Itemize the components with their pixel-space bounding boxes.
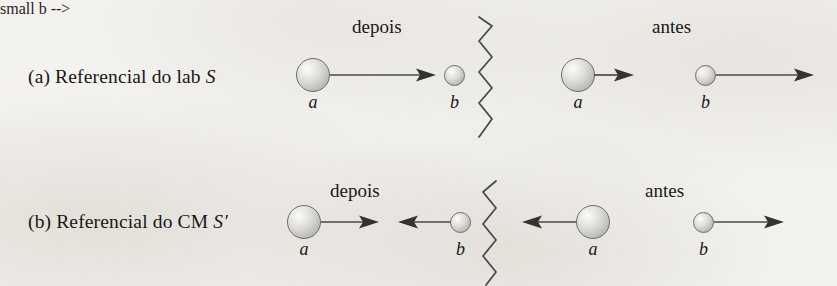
arrow-b-cm-antes-right <box>712 209 786 235</box>
separator-zigzag-bottom <box>474 180 514 286</box>
frame-symbol-cm: S′ <box>213 211 228 232</box>
phase-label-cm-antes: antes <box>645 180 684 202</box>
phase-label-lab-antes: antes <box>652 16 691 38</box>
phase-label-lab-depois: depois <box>352 16 402 38</box>
particle-b-lab-antes <box>695 65 716 86</box>
collision-frames-figure: (a) Referencial do lab S depois antes sm… <box>0 0 837 286</box>
particle-a-cm-antes <box>576 205 610 239</box>
particle-label-b-cm-antes: b <box>692 239 715 260</box>
row-label-lab-text: (a) Referencial do lab <box>28 66 201 87</box>
row-label-lab-frame: (a) Referencial do lab S <box>28 66 216 88</box>
particle-a-lab-depois <box>296 58 330 92</box>
particle-b-cm-depois <box>450 212 471 233</box>
particle-label-a-lab-antes: a <box>561 92 595 113</box>
particle-label-a-cm-depois: a <box>287 239 321 260</box>
particle-b-cm-antes <box>693 212 714 233</box>
particle-label-a-cm-antes: a <box>576 239 610 260</box>
arrow-b-cm-depois-left <box>396 209 458 235</box>
particle-label-b-lab-depois: b <box>443 92 466 113</box>
frame-symbol-lab: S <box>206 66 216 87</box>
arrow-b-lab-antes-right <box>714 62 816 88</box>
particle-a-cm-depois <box>287 205 321 239</box>
particle-a-lab-antes <box>561 58 595 92</box>
arrow-a-cm-antes-left <box>520 209 582 235</box>
arrow-a-lab-antes-right <box>592 62 636 88</box>
row-label-cm-frame: (b) Referencial do CM S′ <box>28 211 228 233</box>
phase-label-cm-depois: depois <box>330 180 380 202</box>
row-label-cm-text: (b) Referencial do CM <box>28 211 208 232</box>
arrow-a-cm-depois-right <box>319 209 381 235</box>
particle-label-b-cm-depois: b <box>449 239 472 260</box>
separator-zigzag-top <box>470 16 510 138</box>
arrow-a-lab-depois-right <box>328 62 438 88</box>
particle-label-b-lab-antes: b <box>694 92 717 113</box>
particle-b-lab-depois <box>444 65 465 86</box>
particle-label-a-lab-depois: a <box>296 92 330 113</box>
